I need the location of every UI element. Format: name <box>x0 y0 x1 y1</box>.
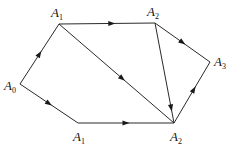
arrowhead-icon <box>35 51 41 58</box>
node-label-A1_bot: A1 <box>72 129 85 146</box>
node-label-A1_top: A1 <box>50 5 63 22</box>
arrowhead-icon <box>123 120 130 125</box>
arrowhead-icon <box>45 99 52 105</box>
arrowhead-icon <box>168 104 173 111</box>
edge-A1_top-A2_top <box>59 23 155 24</box>
node-labels-group: A0A1A2A3A1A2 <box>3 4 226 146</box>
edges-group <box>20 21 210 126</box>
arrowhead-icon <box>190 86 196 93</box>
arrowhead-icon <box>108 21 115 26</box>
node-label-A3: A3 <box>213 54 226 71</box>
edge-A2_bot-A3 <box>174 62 210 123</box>
node-label-A2_top: A2 <box>146 4 159 21</box>
node-label-A2_bot: A2 <box>169 129 182 146</box>
directed-graph-diagram: A0A1A2A3A1A2 <box>0 0 230 154</box>
edge-A1_top-A2_bot <box>59 24 174 123</box>
node-label-A0: A0 <box>3 78 16 95</box>
arrowhead-icon <box>178 38 185 44</box>
